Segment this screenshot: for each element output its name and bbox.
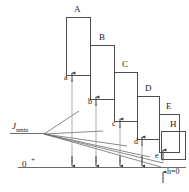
bar-label-A: A	[74, 5, 81, 14]
bar-C	[115, 73, 138, 122]
fan-ray-1	[44, 111, 79, 134]
down-arrows-group	[72, 156, 142, 166]
source-subscript: nmin	[16, 127, 28, 133]
bar-label-H: H	[170, 120, 177, 129]
axis-origin-plus: +	[31, 157, 35, 164]
bar-B	[91, 46, 115, 100]
bar-H	[162, 132, 186, 160]
source-label-jnmin: Jnmin	[12, 122, 28, 133]
bar-A	[67, 18, 91, 76]
baseline-h-zero-label: h=0	[167, 168, 180, 176]
figure-canvas: A B C D E H a b c d e Jnmin 0 + h=0	[0, 0, 189, 192]
bar-label-D: D	[145, 84, 152, 93]
fan-ray-2	[44, 131, 103, 134]
base-label-d: d	[134, 138, 138, 146]
axis-origin-label: 0	[22, 160, 27, 169]
diagram-svg	[0, 0, 189, 192]
base-label-b: b	[88, 98, 92, 106]
fan-ray-5	[44, 134, 163, 163]
bar-label-E: E	[166, 102, 172, 111]
bar-D	[138, 97, 160, 140]
base-label-a: a	[64, 74, 68, 82]
base-label-e: e	[155, 152, 159, 160]
bar-label-C: C	[122, 60, 128, 69]
base-label-c: c	[112, 120, 116, 128]
bars-group	[67, 18, 186, 160]
bar-label-B: B	[99, 33, 105, 42]
fan-ray-6	[44, 134, 161, 167]
